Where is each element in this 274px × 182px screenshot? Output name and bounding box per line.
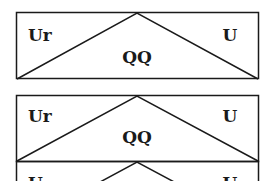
panel-2-center-label: QQ xyxy=(122,127,152,147)
panel-3: U U xyxy=(17,162,259,182)
panel-1: Ur QQ U xyxy=(17,13,259,80)
panel-1-left-label: Ur xyxy=(28,25,53,45)
panel-1-border xyxy=(17,13,259,79)
panel-2-right-label: U xyxy=(223,106,238,126)
panel-1-triangle xyxy=(17,13,258,79)
panel-1-right-label: U xyxy=(223,25,238,45)
panel-2: Ur QQ U xyxy=(17,96,259,162)
panel-3-right-label: U xyxy=(223,173,238,181)
panel-1-center-label: QQ xyxy=(122,47,152,67)
panel-2-left-label: Ur xyxy=(28,106,53,126)
diagram-canvas: Ur QQ U Ur QQ U U U xyxy=(0,0,274,181)
panel-3-left-label: U xyxy=(28,173,43,181)
